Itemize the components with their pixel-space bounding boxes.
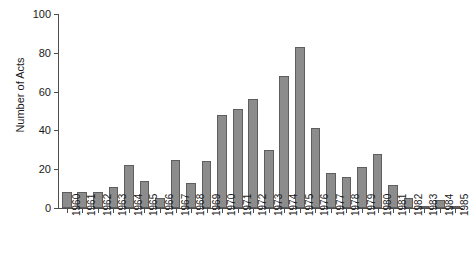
- y-tick-mark: [54, 53, 59, 54]
- x-tick-mark: [346, 209, 347, 213]
- x-tick-label: 1971: [242, 194, 253, 216]
- x-tick-label: 1962: [102, 194, 113, 216]
- x-tick-label: 1978: [350, 194, 361, 216]
- x-tick-label: 1961: [86, 194, 97, 216]
- x-tick-mark: [440, 209, 441, 213]
- x-tick-mark: [269, 209, 270, 213]
- y-tick-mark: [54, 92, 59, 93]
- x-tick-label: 1972: [257, 194, 268, 216]
- x-tick-label: 1979: [366, 194, 377, 216]
- x-tick-label: 1975: [304, 194, 315, 216]
- x-tick-label: 1967: [180, 194, 191, 216]
- x-tick-mark: [129, 209, 130, 213]
- y-tick-label: 20: [39, 163, 51, 175]
- y-tick-label: 0: [45, 202, 51, 214]
- x-tick-mark: [409, 209, 410, 213]
- x-tick-label: 1976: [319, 194, 330, 216]
- x-tick-label: 1970: [226, 194, 237, 216]
- bar: [295, 47, 305, 208]
- x-tick-label: 1980: [382, 194, 393, 216]
- x-tick-label: 1984: [444, 194, 455, 216]
- x-tick-mark: [113, 209, 114, 213]
- x-tick-mark: [362, 209, 363, 213]
- x-tick-label: 1983: [428, 194, 439, 216]
- x-tick-label: 1973: [273, 194, 284, 216]
- x-tick-mark: [160, 209, 161, 213]
- x-tick-label: 1965: [148, 194, 159, 216]
- x-tick-mark: [82, 209, 83, 213]
- x-tick-mark: [144, 209, 145, 213]
- plot-area: 020406080100 196019611962196319641965196…: [59, 14, 463, 208]
- x-tick-mark: [238, 209, 239, 213]
- x-tick-mark: [67, 209, 68, 213]
- x-tick-label: 1968: [195, 194, 206, 216]
- y-tick-label: 40: [39, 124, 51, 136]
- x-tick-mark: [331, 209, 332, 213]
- x-tick-label: 1982: [413, 194, 424, 216]
- bar: [248, 99, 258, 208]
- x-tick-mark: [253, 209, 254, 213]
- x-tick-label: 1964: [133, 194, 144, 216]
- x-tick-mark: [284, 209, 285, 213]
- x-tick-label: 1960: [71, 194, 82, 216]
- x-tick-mark: [455, 209, 456, 213]
- x-tick-mark: [222, 209, 223, 213]
- y-tick-mark: [54, 169, 59, 170]
- y-tick-label: 100: [33, 8, 51, 20]
- x-tick-label: 1969: [211, 194, 222, 216]
- x-tick-mark: [191, 209, 192, 213]
- bar-chart-figure: Number of Acts 020406080100 196019611962…: [0, 0, 469, 258]
- y-tick-mark: [54, 14, 59, 15]
- bar: [279, 76, 289, 208]
- y-axis-label: Number of Acts: [14, 0, 28, 195]
- x-tick-mark: [315, 209, 316, 213]
- x-tick-mark: [424, 209, 425, 213]
- x-tick-label: 1963: [117, 194, 128, 216]
- x-tick-label: 1981: [397, 194, 408, 216]
- x-tick-mark: [378, 209, 379, 213]
- x-tick-mark: [393, 209, 394, 213]
- y-tick-label: 60: [39, 86, 51, 98]
- y-axis-spine: [58, 14, 59, 209]
- x-tick-mark: [207, 209, 208, 213]
- x-tick-mark: [300, 209, 301, 213]
- x-tick-label: 1977: [335, 194, 346, 216]
- y-tick-label: 80: [39, 47, 51, 59]
- x-tick-label: 1985: [459, 194, 469, 216]
- x-tick-label: 1974: [288, 194, 299, 216]
- x-tick-mark: [176, 209, 177, 213]
- y-tick-mark: [54, 130, 59, 131]
- x-tick-mark: [98, 209, 99, 213]
- y-tick-mark: [54, 208, 59, 209]
- x-tick-label: 1966: [164, 194, 175, 216]
